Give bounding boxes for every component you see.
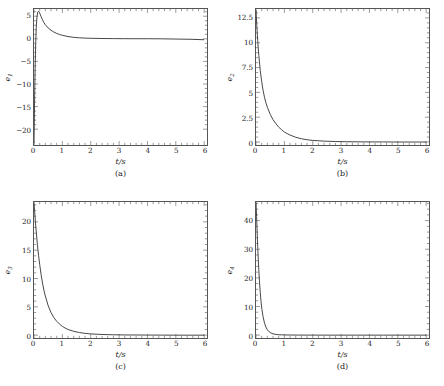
plot-area-d	[255, 201, 430, 339]
y-tick-label: −20	[16, 126, 31, 135]
curve-svg-a	[34, 9, 207, 145]
y-tick-label: 10	[22, 274, 31, 283]
panel-caption-a: (a)	[33, 169, 208, 178]
panel-c: e3 05101520 0123456 t/s (c)	[0, 193, 222, 386]
x-axis-label-b: t/s	[255, 157, 430, 166]
y-tick-label: 10	[244, 303, 253, 312]
x-tick-label: 1	[59, 146, 64, 155]
figure-grid: e1 −20−15−10−505 0123456 t/s (a) e2 02.5…	[0, 0, 444, 386]
x-tick-label: 2	[88, 146, 93, 155]
x-tick-label: 2	[310, 146, 315, 155]
x-tick-label: 6	[425, 146, 430, 155]
y-tick-labels-c: 05101520	[0, 201, 31, 339]
x-axis-label-d: t/s	[255, 350, 430, 359]
x-tick-label: 5	[396, 339, 401, 348]
curve-svg-d	[256, 202, 429, 338]
x-tick-label: 0	[253, 146, 258, 155]
x-tick-label: 4	[368, 146, 373, 155]
y-tick-label: 20	[22, 217, 31, 226]
y-tick-label: 30	[244, 244, 253, 253]
x-axis-label-a: t/s	[33, 157, 208, 166]
y-tick-labels-a: −20−15−10−505	[0, 8, 31, 146]
y-tick-label: 10	[244, 38, 253, 47]
x-tick-label: 4	[368, 339, 373, 348]
y-tick-labels-b: 02.557.51012.5	[222, 8, 253, 146]
y-tick-label: 12.5	[237, 13, 253, 22]
y-tick-label: −15	[16, 103, 31, 112]
y-tick-label: 0	[27, 34, 31, 43]
y-tick-label: 2.5	[242, 113, 253, 122]
y-tick-label: 5	[249, 88, 253, 97]
y-tick-label: 40	[244, 215, 253, 224]
x-tick-label: 5	[174, 146, 179, 155]
panel-b: e2 02.557.51012.5 0123456 t/s (b)	[222, 0, 444, 193]
x-tick-label: 3	[339, 339, 344, 348]
x-tick-label: 6	[203, 146, 208, 155]
x-tick-label: 4	[146, 146, 151, 155]
curve-svg-b	[256, 9, 429, 145]
plot-area-c	[33, 201, 208, 339]
x-tick-label: 6	[425, 339, 430, 348]
x-tick-label: 0	[31, 339, 36, 348]
panel-caption-d: (d)	[255, 362, 430, 371]
x-tick-label: 1	[59, 339, 64, 348]
y-tick-label: −10	[16, 80, 31, 89]
x-tick-label: 4	[146, 339, 151, 348]
y-tick-label: 15	[22, 245, 31, 254]
panel-caption-c: (c)	[33, 362, 208, 371]
y-tick-label: 20	[244, 274, 253, 283]
x-tick-label: 0	[253, 339, 258, 348]
x-tick-label: 6	[203, 339, 208, 348]
y-tick-label: 5	[27, 11, 31, 20]
x-tick-label: 2	[88, 339, 93, 348]
x-tick-label: 1	[281, 339, 286, 348]
y-tick-label: 7.5	[242, 63, 253, 72]
x-tick-label: 3	[339, 146, 344, 155]
plot-area-b	[255, 8, 430, 146]
panel-d: e4 010203040 0123456 t/s (d)	[222, 193, 444, 386]
panel-caption-b: (b)	[255, 169, 430, 178]
y-tick-label: 5	[27, 303, 31, 312]
x-tick-label: 2	[310, 339, 315, 348]
panel-a: e1 −20−15−10−505 0123456 t/s (a)	[0, 0, 222, 193]
y-tick-label: −5	[21, 57, 31, 66]
curve-svg-c	[34, 202, 207, 338]
x-tick-label: 0	[31, 146, 36, 155]
x-tick-label: 3	[117, 146, 122, 155]
x-axis-label-c: t/s	[33, 350, 208, 359]
plot-area-a	[33, 8, 208, 146]
x-tick-label: 5	[396, 146, 401, 155]
x-tick-label: 5	[174, 339, 179, 348]
x-tick-label: 3	[117, 339, 122, 348]
x-tick-label: 1	[281, 146, 286, 155]
y-tick-labels-d: 010203040	[222, 201, 253, 339]
